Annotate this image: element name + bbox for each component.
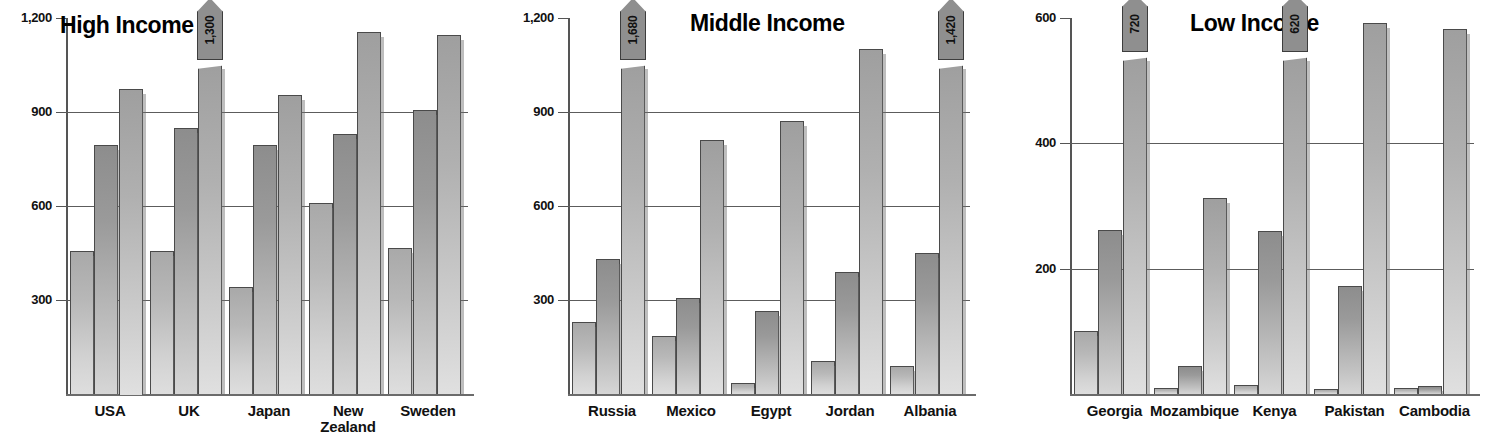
bar-shadow	[1306, 61, 1310, 394]
bar	[437, 35, 461, 394]
bar-shadow	[301, 100, 305, 394]
bar	[939, 64, 963, 394]
bar-shadow	[380, 37, 384, 394]
bar-shadow	[1226, 203, 1230, 394]
y-axis-tick-label: 300	[0, 292, 52, 307]
y-axis-tick-label: 1,200	[0, 10, 52, 25]
bar	[357, 32, 381, 394]
bar	[1363, 23, 1387, 394]
y-axis-tick-label: 200	[996, 261, 1056, 276]
value-callout-label: 1,300	[203, 16, 217, 45]
bar	[309, 203, 333, 394]
bar	[119, 89, 143, 395]
y-axis-tick-label: 600	[996, 10, 1056, 25]
bar	[1203, 198, 1227, 394]
bar	[1258, 231, 1282, 394]
y-axis-tick	[558, 18, 570, 19]
bar	[700, 140, 724, 394]
bar	[198, 64, 222, 394]
x-axis-category-label: Cambodia	[1388, 403, 1481, 419]
bar	[1154, 388, 1178, 394]
value-callout-label: 620	[1288, 14, 1302, 33]
bar-shadow	[723, 145, 727, 394]
y-axis-line	[1070, 18, 1072, 396]
chart-panel-2: 200400600Low Income720GeorgiaMozambique6…	[1000, 0, 1500, 426]
bar	[621, 64, 645, 394]
bar	[333, 134, 357, 394]
y-axis-tick-label: 300	[494, 292, 554, 307]
bar-shadow	[803, 126, 807, 394]
y-axis-line	[568, 18, 570, 396]
bar-shadow	[882, 54, 886, 394]
bar-shadow	[1466, 34, 1470, 394]
bar	[1098, 230, 1122, 394]
bar	[890, 366, 914, 394]
value-callout-flag: 720	[1122, 0, 1148, 52]
y-axis-tick	[1060, 18, 1072, 19]
x-axis-category-label: UK	[143, 403, 235, 419]
bar-shadow	[142, 94, 146, 395]
plot-area: 200400600Low Income720GeorgiaMozambique6…	[1000, 0, 1500, 426]
bar-shadow	[460, 40, 464, 394]
bar	[859, 49, 883, 394]
value-callout-flag: 1,680	[620, 0, 646, 60]
bar	[150, 251, 174, 394]
bar	[1123, 56, 1147, 394]
x-axis-category-label: Albania	[884, 403, 976, 419]
bar-shadow	[1386, 28, 1390, 394]
panel-title: High Income	[60, 12, 194, 39]
x-axis-category-label: Sweden	[382, 403, 474, 419]
y-axis-tick-label: 600	[494, 198, 554, 213]
bar	[413, 110, 437, 394]
bar	[572, 322, 596, 394]
bar	[1418, 386, 1442, 394]
value-callout-flag: 620	[1282, 0, 1308, 52]
bar	[229, 287, 253, 394]
x-axis-baseline	[1070, 394, 1480, 396]
bar	[174, 128, 198, 394]
bar-shadow	[1146, 61, 1150, 394]
bar	[1178, 366, 1202, 394]
bar	[1234, 385, 1258, 394]
bar-shadow	[221, 69, 225, 394]
bar	[388, 248, 412, 394]
y-axis-tick-label: 600	[0, 198, 52, 213]
bar	[811, 361, 835, 394]
bar	[596, 259, 620, 394]
bar	[780, 121, 804, 394]
bar	[731, 383, 755, 394]
bar	[1443, 29, 1467, 394]
chart-panel-0: 3006009001,200High IncomeUSA1,300UKJapan…	[0, 0, 500, 426]
bar	[1394, 388, 1418, 394]
x-axis-baseline	[568, 394, 976, 396]
bar	[1314, 389, 1338, 394]
chart-panel-1: 3006009001,200Middle Income1,680RussiaMe…	[500, 0, 1000, 426]
value-callout-label: 720	[1128, 14, 1142, 33]
value-callout-label: 1,420	[944, 16, 958, 45]
bar	[835, 272, 859, 394]
panel-title: Middle Income	[690, 10, 845, 37]
bar	[915, 253, 939, 394]
plot-area: 3006009001,200Middle Income1,680RussiaMe…	[500, 0, 1000, 426]
bar	[278, 95, 302, 394]
y-axis-tick-label: 1,200	[494, 10, 554, 25]
bar	[1338, 286, 1362, 394]
y-axis-tick-label: 900	[494, 104, 554, 119]
plot-area: 3006009001,200High IncomeUSA1,300UKJapan…	[0, 0, 500, 426]
bar	[253, 145, 277, 394]
bar	[1074, 331, 1098, 394]
bar	[652, 336, 676, 394]
bar	[70, 251, 94, 394]
value-callout-flag: 1,420	[938, 0, 964, 60]
x-axis-category-label: Mexico	[645, 403, 737, 419]
bar	[676, 298, 700, 394]
value-callout-flag: 1,300	[197, 0, 223, 60]
x-axis-category-label: Jordan	[804, 403, 896, 419]
bar	[94, 145, 118, 394]
x-axis-category-label: New Zealand	[302, 403, 394, 435]
bar	[755, 311, 779, 394]
bar-shadow	[644, 69, 648, 394]
y-axis-tick-label: 400	[996, 135, 1056, 150]
y-axis-line	[66, 18, 68, 396]
